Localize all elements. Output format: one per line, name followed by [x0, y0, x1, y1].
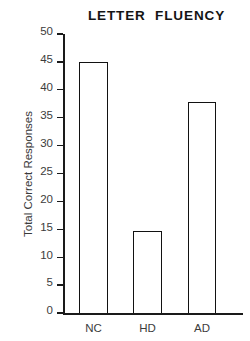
y-tick-label: 25 [40, 165, 53, 177]
y-tick: 0 [57, 312, 63, 313]
y-tick: 40 [57, 89, 63, 90]
y-tick-label: 5 [47, 276, 53, 288]
chart-title: LETTER FLUENCY [63, 8, 250, 23]
y-tick-label: 20 [40, 193, 53, 205]
y-tick: 25 [57, 173, 63, 174]
y-tick: 15 [57, 229, 63, 230]
y-tick-label: 45 [40, 53, 53, 65]
y-tick-label: 0 [47, 304, 53, 316]
y-tick-label: 15 [40, 221, 53, 233]
y-tick: 10 [57, 257, 63, 258]
y-tick: 5 [57, 284, 63, 285]
y-tick-label: 30 [40, 137, 53, 149]
x-tick-label-hd: HD [133, 322, 162, 334]
bar-hd [133, 231, 162, 313]
x-axis-line [63, 313, 243, 315]
y-tick: 45 [57, 61, 63, 62]
y-tick-label: 40 [40, 81, 53, 93]
y-tick: 30 [57, 145, 63, 146]
x-tick-label-nc: NC [79, 322, 108, 334]
x-tick-label-ad: AD [188, 322, 216, 334]
bar-nc [79, 62, 108, 313]
y-tick: 35 [57, 117, 63, 118]
y-tick: 50 [57, 33, 63, 34]
letter-fluency-bar-chart: LETTER FLUENCY Total Correct Responses 5… [0, 0, 250, 341]
bar-ad [188, 102, 216, 313]
plot-area: 50454035302520151050 NCHDAD [63, 34, 243, 313]
y-axis-title: Total Correct Responses [22, 84, 34, 264]
y-axis-line [63, 34, 65, 313]
y-tick: 20 [57, 201, 63, 202]
y-tick-label: 35 [40, 109, 53, 121]
y-tick-label: 10 [40, 249, 53, 261]
y-tick-label: 50 [40, 25, 53, 37]
